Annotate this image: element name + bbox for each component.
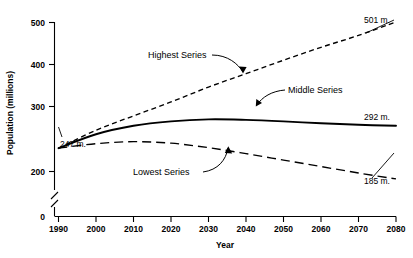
x-tick-label-2080: 2080	[387, 224, 406, 234]
x-tick-label-2050: 2050	[274, 224, 293, 234]
y-tick-label-400: 400	[31, 60, 45, 70]
start-value-label: 247 m.	[60, 139, 86, 149]
y-tick-label-300: 300	[31, 102, 45, 112]
highest-end-label: 501 m.	[364, 15, 390, 25]
x-tick-label-2020: 2020	[162, 224, 181, 234]
annotation-label-lowest: Lowest Series	[133, 167, 190, 177]
x-tick-label-2010: 2010	[124, 224, 143, 234]
y-axis-title: Population (millions)	[5, 71, 15, 155]
middle-end-label: 292 m.	[364, 112, 390, 122]
x-tick-label-2060: 2060	[312, 224, 331, 234]
chart-background	[0, 0, 413, 258]
y-tick-label-200: 200	[31, 167, 45, 177]
x-tick-label-2040: 2040	[237, 224, 256, 234]
x-tick-label-1990: 1990	[49, 224, 68, 234]
y-tick-label-0: 0	[40, 212, 45, 222]
lowest-end-label: 185 m.	[364, 176, 390, 186]
x-tick-label-2000: 2000	[87, 224, 106, 234]
chart-canvas: 500 400 300 200 0 Population (millions) …	[0, 0, 413, 258]
x-axis-title: Year	[216, 240, 235, 250]
x-tick-label-2070: 2070	[349, 224, 368, 234]
y-tick-label-500: 500	[31, 18, 45, 28]
population-projection-chart: 500 400 300 200 0 Population (millions) …	[0, 0, 413, 258]
x-tick-label-2030: 2030	[199, 224, 218, 234]
annotation-label-highest: Highest Series	[148, 50, 207, 60]
annotation-label-middle: Middle Series	[288, 85, 343, 95]
